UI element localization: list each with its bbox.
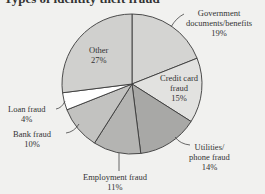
label-government: Government documents/benefits 19% xyxy=(186,8,252,38)
label-other: Other 27% xyxy=(89,45,108,65)
label-employment: Employment fraud 11% xyxy=(83,172,147,192)
leader-government xyxy=(171,14,184,27)
leader-loan xyxy=(56,101,65,109)
label-loan: Loan fraud 4% xyxy=(8,104,46,124)
label-utilities: Utilities/ phone fraud 14% xyxy=(189,142,230,172)
label-credit-card: Credit card fraud 15% xyxy=(160,73,198,103)
label-bank: Bank fraud 10% xyxy=(13,129,51,149)
leader-utilities xyxy=(175,137,190,145)
